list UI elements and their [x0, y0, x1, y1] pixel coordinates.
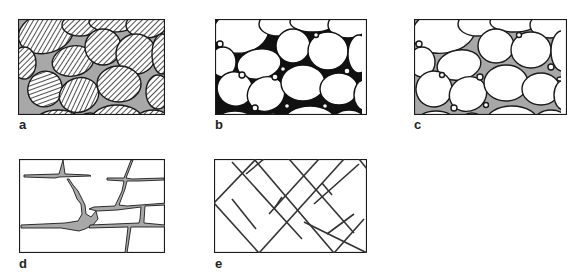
fractured-blocks-diagram [19, 159, 165, 253]
panel-c [414, 19, 567, 115]
cemented-grains-diagram [215, 19, 367, 115]
partially-cemented-grains-diagram [414, 19, 567, 115]
panel-c-label: c [414, 117, 421, 132]
panel-d [19, 159, 165, 253]
intersecting-fractures-diagram [214, 159, 367, 253]
panel-a [18, 19, 165, 115]
granular-hatched-diagram [18, 19, 165, 115]
panel-e-label: e [215, 256, 222, 271]
panel-b [215, 19, 367, 115]
panel-d-label: d [19, 256, 27, 271]
panel-a-label: a [19, 117, 26, 132]
panel-e [214, 159, 367, 253]
panel-b-label: b [215, 117, 223, 132]
